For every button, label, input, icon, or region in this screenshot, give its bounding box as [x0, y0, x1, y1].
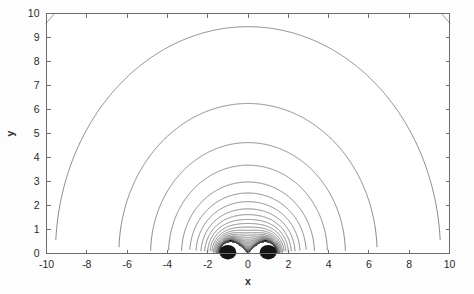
x-tick-label: 0 — [245, 258, 251, 270]
y-tick-label: 4 — [34, 151, 40, 163]
x-tick-label: -2 — [203, 258, 212, 270]
x-tick-label: 4 — [326, 258, 332, 270]
y-tick-label: 8 — [34, 55, 40, 67]
y-tick-label: 2 — [34, 199, 40, 211]
y-tick-label: 0 — [34, 247, 40, 259]
x-tick-label: 6 — [366, 258, 372, 270]
y-tick-label: 3 — [34, 175, 40, 187]
x-tick-label: 10 — [444, 258, 456, 270]
plot-area-background — [47, 14, 450, 254]
source-right — [260, 245, 277, 259]
y-axis-title: y — [4, 130, 16, 136]
source-left — [219, 245, 236, 259]
x-tick-label: 2 — [285, 258, 291, 270]
x-tick-label: 8 — [406, 258, 412, 270]
y-tick-label: 9 — [34, 31, 40, 43]
x-tick-label: -4 — [163, 258, 172, 270]
x-tick-label: -8 — [82, 258, 91, 270]
x-tick-label: -10 — [39, 258, 54, 270]
y-tick-label: 10 — [28, 7, 40, 19]
y-tick-label: 1 — [34, 223, 40, 235]
contour-plot-figure: -10-8-6-4-20246810 012345678910 x y — [0, 0, 474, 294]
y-tick-label: 7 — [34, 79, 40, 91]
y-tick-label: 6 — [34, 103, 40, 115]
y-tick-label: 5 — [34, 127, 40, 139]
x-axis-title: x — [245, 275, 251, 287]
plot-canvas: -10-8-6-4-20246810 012345678910 x y — [0, 0, 474, 294]
x-tick-label: -6 — [122, 258, 131, 270]
